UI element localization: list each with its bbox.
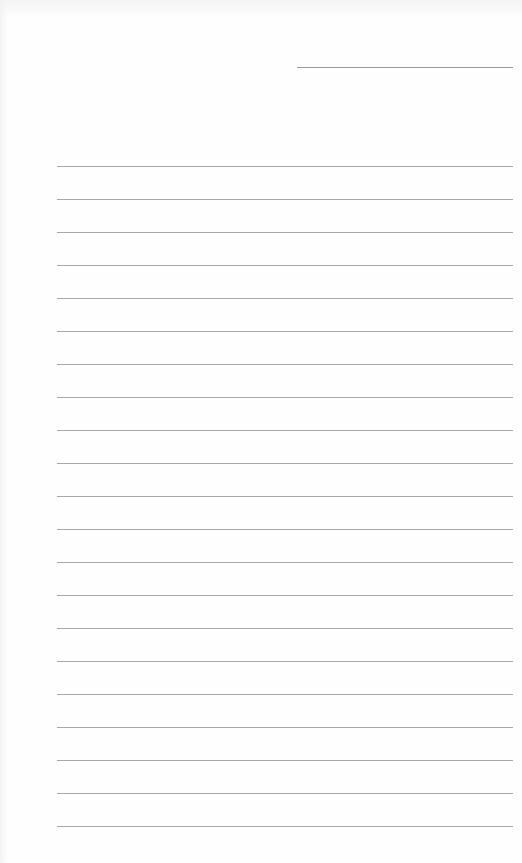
lined-paper-page bbox=[0, 0, 522, 863]
ruled-line bbox=[57, 199, 513, 200]
ruled-line bbox=[57, 661, 513, 662]
ruled-line bbox=[57, 727, 513, 728]
ruled-line bbox=[57, 628, 513, 629]
ruled-line bbox=[57, 298, 513, 299]
ruled-line bbox=[57, 562, 513, 563]
ruled-line bbox=[57, 496, 513, 497]
ruled-line bbox=[57, 430, 513, 431]
ruled-line bbox=[57, 166, 513, 167]
page-top-shadow bbox=[0, 0, 522, 18]
ruled-line bbox=[57, 364, 513, 365]
ruled-line bbox=[57, 331, 513, 332]
ruled-line bbox=[57, 595, 513, 596]
ruled-line bbox=[57, 463, 513, 464]
ruled-line bbox=[57, 265, 513, 266]
ruled-line bbox=[57, 760, 513, 761]
ruled-line bbox=[57, 826, 513, 827]
ruled-line bbox=[57, 232, 513, 233]
page-left-shadow bbox=[0, 0, 8, 863]
ruled-line bbox=[57, 397, 513, 398]
ruled-line bbox=[57, 694, 513, 695]
ruled-line bbox=[57, 529, 513, 530]
date-line bbox=[297, 67, 513, 68]
ruled-line bbox=[57, 793, 513, 794]
